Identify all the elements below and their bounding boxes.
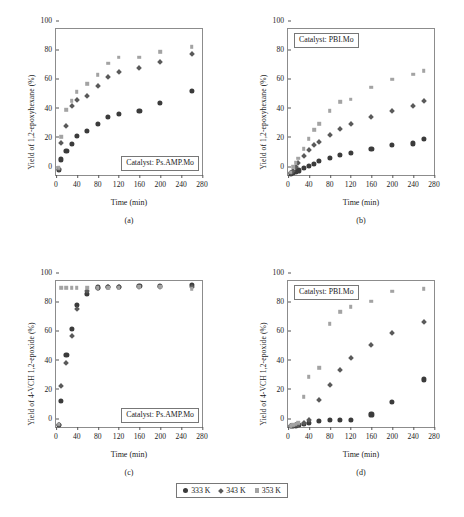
catalyst-annotation: Catalyst: Ps.AMP.Mo [121,408,199,423]
data-point [348,121,353,126]
x-axis-tick: 80 [94,175,102,189]
data-point [311,161,316,166]
y-axis-tick: 100 [41,268,56,277]
catalyst-annotation: Catalyst: PBI.Mo [294,33,359,48]
x-axis-tick: 0 [286,175,290,189]
plot-area-d: Catalyst: PBI.Mo 02040608010004080120160… [287,280,435,428]
data-point [291,165,295,169]
data-point [137,65,142,70]
x-axis-tick: 240 [407,427,418,441]
data-point [307,375,311,379]
y-axis-tick: 80 [276,297,288,306]
x-axis-tick: 0 [54,427,58,441]
y-axis-tick: 0 [48,414,56,423]
data-point [85,286,89,290]
data-point [59,286,63,290]
data-point [106,62,110,66]
y-axis-tick: 60 [276,74,288,83]
x-axis-tick: 80 [94,427,102,441]
y-axis-tick: 60 [44,326,56,335]
diamond-marker [219,488,224,493]
data-point [59,140,64,145]
legend-item: 343 K [219,486,245,495]
x-axis-tick: 280 [428,175,439,189]
plot-area-b: Catalyst: PBI.Mo 02040608010004080120160… [287,28,435,176]
data-point [421,137,426,142]
data-point [65,108,69,112]
x-axis-tick: 40 [305,427,313,441]
data-point [312,128,316,132]
data-point [59,135,63,139]
data-point [317,159,322,164]
x-axis-tick: 0 [286,427,290,441]
data-point [64,352,69,357]
data-point [338,100,342,104]
y-axis-tick: 100 [273,16,288,25]
data-point [306,147,311,152]
x-axis-tick: 280 [428,427,439,441]
data-point [289,170,293,174]
data-point [297,421,301,425]
data-point [369,412,374,417]
data-point [138,56,142,60]
chart-panel-a: Yield of 1,2-epoxyhexane (%) Catalyst: P… [0,6,232,238]
x-axis-tick: 200 [387,175,398,189]
data-point [390,330,395,335]
y-axis-tick: 40 [44,103,56,112]
x-axis-tick: 120 [113,175,124,189]
data-point [370,300,374,304]
data-point [96,73,100,77]
x-axis-tick: 80 [326,175,334,189]
data-point [189,88,194,93]
data-point [64,360,69,365]
y-axis-tick: 20 [44,132,56,141]
x-axis-tick: 40 [73,175,81,189]
panel-caption: (a) [55,216,203,225]
x-axis-tick: 200 [387,427,398,441]
data-point [65,286,69,290]
legend-item: 353 K [255,486,281,495]
x-axis-tick: 240 [175,427,186,441]
x-axis-tick: 0 [54,175,58,189]
legend-item: 333 K [183,486,210,495]
data-point [106,74,111,79]
y-axis-tick: 60 [276,326,288,335]
data-point [312,143,317,148]
data-point [338,153,343,158]
x-axis-tick: 240 [175,175,186,189]
data-point [327,156,332,161]
data-point [57,422,61,426]
data-point [301,153,306,158]
data-point [117,56,121,60]
data-point [59,383,64,388]
panel-caption: (c) [55,468,203,477]
data-point [421,377,426,382]
data-point [338,126,343,131]
data-point [158,100,163,105]
data-point [70,99,74,103]
data-point [190,45,194,49]
data-point [85,82,89,86]
x-axis-label: Time (min) [55,198,203,207]
data-point [158,285,162,289]
data-point [421,319,426,324]
y-axis-tick: 80 [44,297,56,306]
x-axis-tick: 200 [155,427,166,441]
data-point [117,286,121,290]
y-axis-tick: 20 [44,384,56,393]
x-axis-tick: 40 [305,175,313,189]
chart-panel-b: Yield of 1,2-epoxyhexane (%) Catalyst: P… [232,6,464,238]
x-axis-tick: 280 [196,427,207,441]
y-axis-tick: 0 [280,162,288,171]
x-axis-tick: 240 [407,175,418,189]
legend-label: 343 K [226,486,245,495]
x-axis-tick: 280 [196,175,207,189]
data-point [421,98,426,103]
data-point [85,129,90,134]
data-point [348,151,353,156]
data-point [69,333,74,338]
data-point [95,83,100,88]
y-axis-tick: 0 [48,162,56,171]
data-point [369,146,374,151]
data-point [328,109,332,113]
